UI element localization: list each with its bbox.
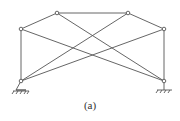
joint-top-left [55, 11, 59, 15]
joint-bottom-left [19, 79, 23, 83]
truss-joints [19, 11, 166, 83]
member-right-upper [128, 13, 164, 29]
member-left-upper [21, 13, 57, 29]
joint-bottom-right [162, 79, 166, 83]
truss-members [21, 13, 164, 81]
joint-mid-left [19, 27, 23, 31]
joint-mid-right [162, 27, 166, 31]
diagonal-topright-bottomleft [21, 13, 128, 81]
diagonal-topleft-bottomright [57, 13, 164, 81]
joint-top-right [126, 11, 130, 15]
figure-caption: (a) [0, 99, 180, 111]
